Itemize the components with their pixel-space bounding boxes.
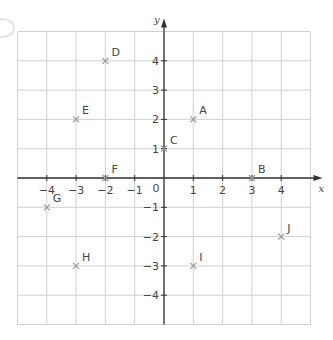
x-axis-arrow-icon [314,175,323,181]
point-label: I [199,251,202,264]
x-tick-label: 3 [248,184,255,197]
x-tick-label: 4 [278,184,285,197]
point-label: F [111,163,117,176]
point-label: G [53,192,62,205]
y-axis-arrow-icon [161,19,167,28]
plotted-points: ABCDEFGHIJ [44,46,291,269]
point-label: E [82,104,89,117]
y-tick-label: 4 [152,55,159,68]
point-label: C [170,134,178,147]
x-tick-label: −1 [127,184,143,197]
x-tick-label: −2 [97,184,113,197]
x-axis-label: x [319,183,325,194]
y-tick-label: −3 [143,260,159,273]
point-label: A [199,104,207,117]
x-tick-label: 2 [219,184,226,197]
y-tick-label: −1 [143,201,159,214]
coordinate-grid-diagram: xy −4−3−2−112344321−1−2−3−40 ABCDEFGHIJ [0,0,333,340]
point-label: B [258,163,266,176]
x-tick-label: 1 [190,184,197,197]
point-label: J [286,222,290,235]
x-tick-label: −3 [68,184,84,197]
point-label: D [111,46,119,59]
y-tick-label: 3 [152,84,159,97]
y-tick-label: −4 [143,289,159,302]
corner-circle-decoration [0,19,14,37]
y-tick-label: −2 [143,231,159,244]
axes: xy [18,14,325,325]
y-axis-label: y [153,14,160,25]
y-tick-label: 1 [152,143,159,156]
y-tick-label: 2 [152,113,159,126]
origin-label: 0 [153,182,160,195]
point-label: H [82,251,90,264]
